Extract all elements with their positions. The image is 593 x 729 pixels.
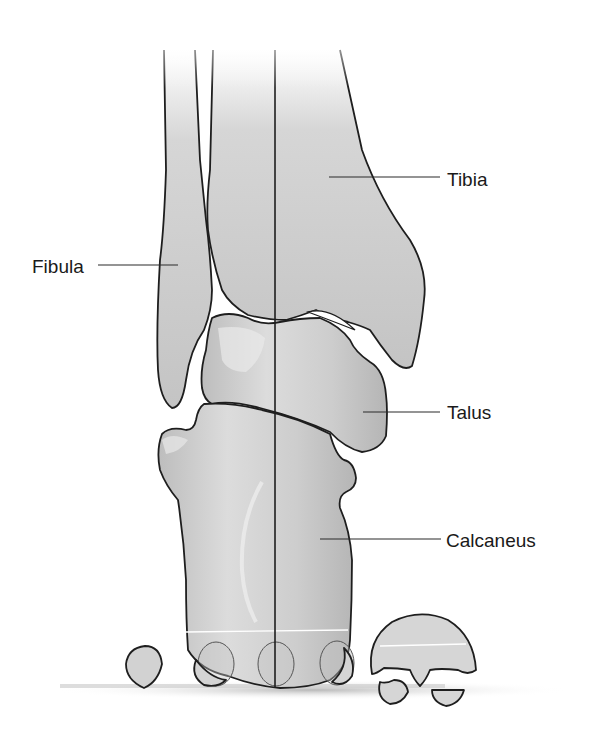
label-tibia: Tibia [447, 170, 487, 189]
label-calcaneus: Calcaneus [446, 531, 536, 550]
label-talus: Talus [447, 403, 491, 422]
top-fade [140, 0, 400, 220]
label-fibula: Fibula [32, 257, 84, 276]
left-round-bone [126, 646, 162, 688]
ankle-anatomy-diagram [0, 0, 593, 729]
calcaneus-bone [158, 404, 356, 688]
